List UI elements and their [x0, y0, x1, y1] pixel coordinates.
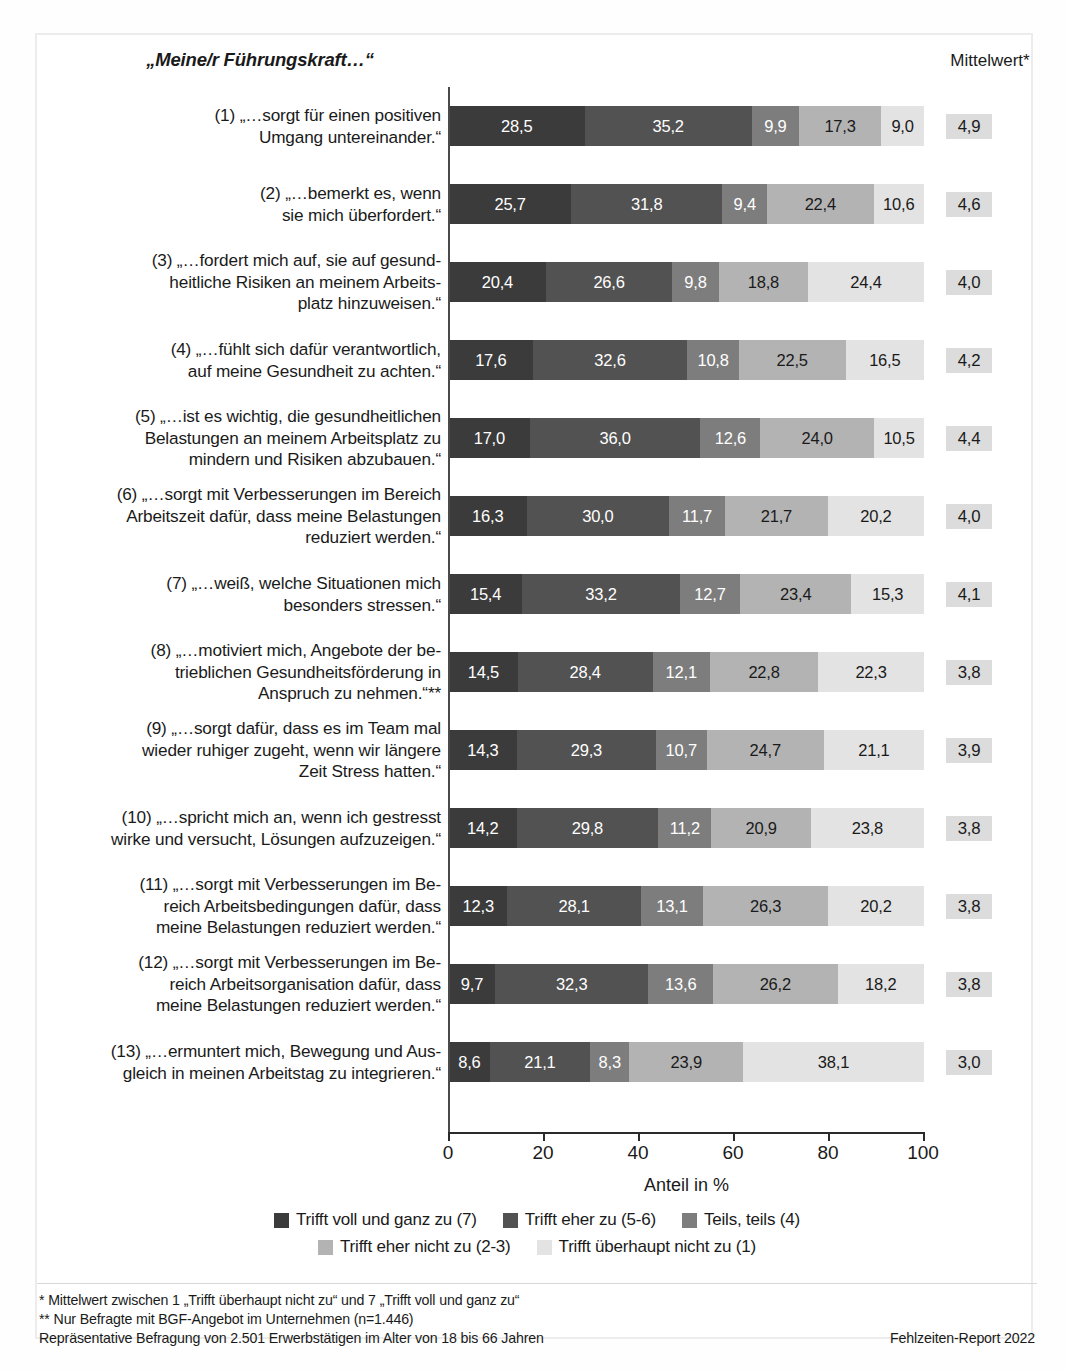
stacked-bar-chart: (1) „…sorgt für einen positivenUmgang un… [37, 35, 1037, 1335]
bar-segment-2: 28,1 [507, 886, 640, 926]
chart-row: (10) „…spricht mich an, wenn ich gestres… [37, 789, 1037, 867]
mean-value: 3,8 [946, 972, 992, 997]
legend-item[interactable]: Trifft überhaupt nicht zu (1) [537, 1237, 756, 1257]
row-label-line: Umgang untereinander.“ [45, 126, 441, 148]
row-label: (4) „…fühlt sich dafür verantwortlich,au… [45, 339, 441, 382]
bar-segment-1: 28,5 [449, 106, 585, 146]
row-label-line: (5) „…ist es wichtig, die gesundheitlich… [45, 406, 441, 428]
mean-value: 3,0 [946, 1050, 992, 1075]
row-label-line: sie mich überfordert.“ [45, 204, 441, 226]
legend-swatch-icon [682, 1213, 697, 1228]
footnote-3-row: Repräsentative Befragung von 2.501 Erwer… [39, 1329, 1035, 1348]
bar-segment-2: 31,8 [571, 184, 722, 224]
bar-segment-3: 10,8 [687, 340, 738, 380]
legend-item[interactable]: Trifft eher nicht zu (2-3) [318, 1237, 511, 1257]
row-label-line: (1) „…sorgt für einen positiven [45, 105, 441, 127]
bar-segment-4: 22,5 [739, 340, 846, 380]
stacked-bar: 16,330,011,721,720,2 [449, 496, 924, 536]
chart-row: (4) „…fühlt sich dafür verantwortlich,au… [37, 321, 1037, 399]
x-tick [448, 1132, 450, 1141]
row-label-line: wirke und versucht, Lösungen aufzuzeigen… [45, 828, 441, 850]
bar-segment-4: 20,9 [711, 808, 810, 848]
source-label: Fehlzeiten-Report 2022 [890, 1329, 1035, 1348]
stacked-bar: 25,731,89,422,410,6 [449, 184, 924, 224]
mean-value: 3,8 [946, 894, 992, 919]
bar-segment-4: 17,3 [799, 106, 881, 146]
legend-item[interactable]: Teils, teils (4) [682, 1210, 800, 1230]
row-label: (12) „…sorgt mit Verbesserungen im Be-re… [45, 952, 441, 1017]
row-label-line: meine Belastungen reduziert werden.“ [45, 995, 441, 1017]
chart-row: (9) „…sorgt dafür, dass es im Team malwi… [37, 711, 1037, 789]
footnote-divider [37, 1283, 1037, 1284]
mean-value: 3,8 [946, 816, 992, 841]
row-label-line: (12) „…sorgt mit Verbesserungen im Be- [45, 952, 441, 974]
bar-segment-4: 26,2 [713, 964, 837, 1004]
bar-segment-4: 26,3 [703, 886, 828, 926]
mean-value: 4,0 [946, 504, 992, 529]
bar-segment-5: 10,5 [874, 418, 924, 458]
bar-segment-5: 20,2 [828, 496, 924, 536]
bar-segment-5: 23,8 [811, 808, 924, 848]
row-label-line: reich Arbeitsorganisation dafür, dass [45, 973, 441, 995]
bar-segment-1: 12,3 [449, 886, 507, 926]
x-axis-line [448, 1132, 925, 1134]
row-label: (13) „…ermuntert mich, Bewegung und Aus-… [45, 1041, 441, 1084]
bar-segment-2: 35,2 [585, 106, 752, 146]
row-label-line: (6) „…sorgt mit Verbesserungen im Bereic… [45, 484, 441, 506]
bar-segment-3: 11,7 [669, 496, 725, 536]
bar-segment-3: 12,6 [700, 418, 760, 458]
row-label-line: (7) „…weiß, welche Situationen mich [45, 573, 441, 595]
mean-value: 4,1 [946, 582, 992, 607]
chart-row: (6) „…sorgt mit Verbesserungen im Bereic… [37, 477, 1037, 555]
mean-value: 4,4 [946, 426, 992, 451]
bar-segment-3: 13,1 [641, 886, 703, 926]
footnotes: * Mittelwert zwischen 1 „Trifft überhaup… [39, 1291, 1035, 1348]
bar-segment-1: 14,5 [449, 652, 518, 692]
x-tick-label: 60 [698, 1142, 768, 1164]
x-tick [638, 1132, 640, 1141]
bar-segment-5: 20,2 [828, 886, 924, 926]
bar-segment-3: 11,2 [658, 808, 711, 848]
bar-segment-1: 17,0 [449, 418, 530, 458]
row-label-line: besonders stressen.“ [45, 594, 441, 616]
row-label-line: mindern und Risiken abzubauen.“ [45, 449, 441, 471]
row-label-line: (4) „…fühlt sich dafür verantwortlich, [45, 339, 441, 361]
legend-item[interactable]: Trifft eher zu (5-6) [503, 1210, 656, 1230]
legend-swatch-icon [537, 1240, 552, 1255]
mean-value: 3,8 [946, 660, 992, 685]
row-label-line: reich Arbeitsbedingungen dafür, dass [45, 895, 441, 917]
bar-segment-5: 16,5 [846, 340, 924, 380]
row-label-line: (13) „…ermuntert mich, Bewegung und Aus- [45, 1041, 441, 1063]
row-label: (5) „…ist es wichtig, die gesundheitlich… [45, 406, 441, 471]
bar-segment-1: 8,6 [449, 1042, 490, 1082]
row-label-line: reduziert werden.“ [45, 527, 441, 549]
footnote-1: * Mittelwert zwischen 1 „Trifft überhaup… [39, 1291, 1035, 1310]
bar-segment-3: 9,4 [722, 184, 767, 224]
row-label-line: Arbeitszeit dafür, dass meine Belastunge… [45, 505, 441, 527]
legend-label: Teils, teils (4) [704, 1210, 800, 1230]
chart-row: (12) „…sorgt mit Verbesserungen im Be-re… [37, 945, 1037, 1023]
row-label-line: meine Belastungen reduziert werden.“ [45, 917, 441, 939]
bar-segment-3: 12,7 [680, 574, 740, 614]
bar-segment-5: 21,1 [824, 730, 924, 770]
y-axis-line [448, 87, 450, 1132]
legend-row-1: Trifft voll und ganz zu (7)Trifft eher z… [37, 1210, 1037, 1230]
row-label-line: Anspruch zu nehmen.“** [45, 683, 441, 705]
bar-segment-3: 9,8 [672, 262, 719, 302]
legend-label: Trifft eher nicht zu (2-3) [340, 1237, 511, 1257]
x-tick [923, 1132, 925, 1141]
row-label: (10) „…spricht mich an, wenn ich gestres… [45, 807, 441, 850]
stacked-bar: 15,433,212,723,415,3 [449, 574, 924, 614]
chart-row: (1) „…sorgt für einen positivenUmgang un… [37, 87, 1037, 165]
row-label-line: (2) „…bemerkt es, wenn [45, 183, 441, 205]
bar-segment-4: 23,9 [629, 1042, 743, 1082]
bar-segment-3: 13,6 [648, 964, 713, 1004]
chart-row: (8) „…motiviert mich, Angebote der be-tr… [37, 633, 1037, 711]
legend-item[interactable]: Trifft voll und ganz zu (7) [274, 1210, 477, 1230]
row-label-line: wieder ruhiger zugeht, wenn wir längere [45, 739, 441, 761]
bar-segment-5: 9,0 [881, 106, 924, 146]
bar-segment-2: 26,6 [546, 262, 672, 302]
x-tick [543, 1132, 545, 1141]
row-label-line: Zeit Stress hatten.“ [45, 761, 441, 783]
bar-segment-1: 15,4 [449, 574, 522, 614]
